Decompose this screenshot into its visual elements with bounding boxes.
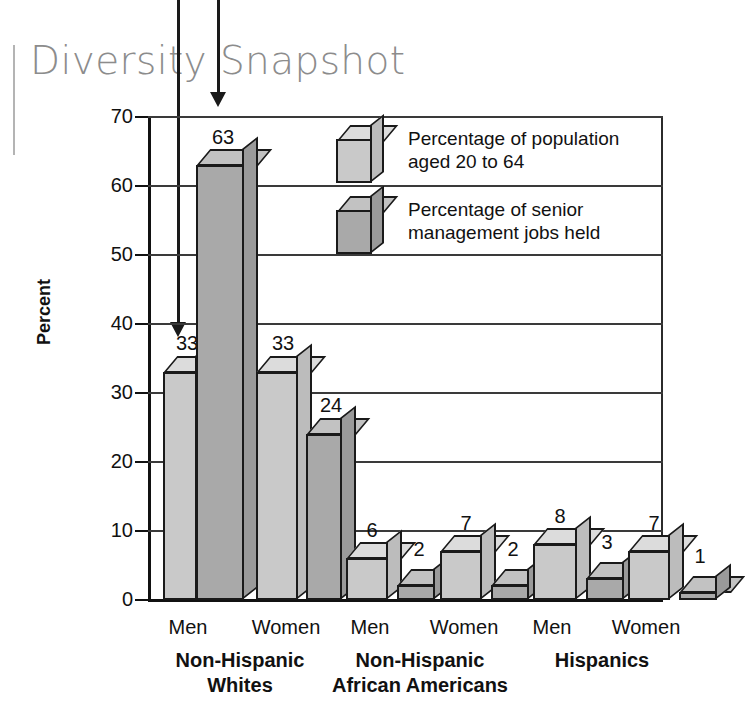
bar-top <box>306 418 370 435</box>
bar-top <box>196 149 272 166</box>
cat-label-nhwhite-women: Women <box>236 616 336 639</box>
title-rule <box>13 45 15 155</box>
cat-label-nhwhite-men: Men <box>148 616 228 639</box>
bar-face <box>440 551 482 600</box>
callout-arrow-63-line <box>217 0 220 95</box>
bar-face <box>196 165 244 600</box>
legend-cube-management-side <box>370 185 384 254</box>
bar-face <box>628 551 670 600</box>
bar-value-nhwhite-women-population: 33 <box>258 332 308 355</box>
bar-hispanic-women-management[interactable] <box>679 576 731 600</box>
y-tick-30: 30 <box>111 381 133 404</box>
cat-group-nhwhite: Non-Hispanic Whites <box>140 648 340 698</box>
bar-value-hispanic-men-management: 3 <box>582 531 632 554</box>
bar-side <box>715 563 731 600</box>
gridline-70 <box>148 116 663 118</box>
bar-value-nhwhite-women-management: 24 <box>306 394 356 417</box>
tick-10 <box>135 530 148 532</box>
bar-value-hispanic-men-population: 8 <box>535 505 585 528</box>
bar-value-nhwhite-men-management: 63 <box>198 126 248 149</box>
bar-face <box>586 578 624 600</box>
tick-50 <box>135 254 148 256</box>
y-tick-10: 10 <box>111 519 133 542</box>
cat-label-hispanic-women: Women <box>596 616 696 639</box>
bar-face <box>679 592 717 600</box>
y-tick-40: 40 <box>111 312 133 335</box>
legend-cube-population-face <box>336 139 372 183</box>
y-axis-title: Percent <box>34 279 55 345</box>
bar-value-hispanic-women-population: 7 <box>629 512 679 535</box>
bar-value-nhafam-men-population: 6 <box>347 519 397 542</box>
y-tick-20: 20 <box>111 450 133 473</box>
bar-top <box>256 356 326 373</box>
bar-face <box>397 585 435 600</box>
bar-face <box>533 544 577 600</box>
bar-value-nhafam-women-population: 7 <box>441 512 491 535</box>
bar-nhwhite-men-management[interactable] <box>196 149 258 600</box>
legend-cube-population <box>336 125 384 183</box>
callout-arrow-63-head <box>210 92 226 107</box>
tick-30 <box>135 392 148 394</box>
legend-entry-population[interactable]: Percentage of population aged 20 to 64 <box>336 125 636 187</box>
y-tick-70: 70 <box>111 105 133 128</box>
bar-value-hispanic-women-management: 1 <box>675 545 725 568</box>
bar-value-nhafam-women-management: 2 <box>488 538 538 561</box>
cat-group-nhafam: Non-Hispanic African Americans <box>320 648 520 698</box>
cat-label-nhafam-men: Men <box>330 616 410 639</box>
bar-face <box>256 372 298 600</box>
legend-cube-population-side <box>370 114 384 183</box>
cat-label-nhafam-women: Women <box>414 616 514 639</box>
tick-20 <box>135 461 148 463</box>
legend-label-management: Percentage of senior management jobs hel… <box>408 198 600 244</box>
cat-label-hispanic-men: Men <box>512 616 592 639</box>
y-tick-60: 60 <box>111 174 133 197</box>
bar-value-nhafam-men-management: 2 <box>394 538 444 561</box>
bar-face <box>306 434 342 600</box>
tick-60 <box>135 185 148 187</box>
bar-face <box>491 585 529 600</box>
legend-label-population: Percentage of population aged 20 to 64 <box>408 127 619 173</box>
legend-cube-management-face <box>336 210 372 254</box>
plot-area: Percentage of population aged 20 to 64 P… <box>148 116 663 600</box>
tick-40 <box>135 323 148 325</box>
y-tick-50: 50 <box>111 243 133 266</box>
bar-top <box>679 576 745 593</box>
cat-group-hispanic: Hispanics <box>512 648 692 673</box>
bar-face <box>346 558 388 600</box>
bar-nhwhite-women-population[interactable] <box>256 356 312 600</box>
tick-0 <box>135 599 148 601</box>
legend-entry-management[interactable]: Percentage of senior management jobs hel… <box>336 196 636 258</box>
y-axis-labels: 70 60 50 40 30 20 10 0 <box>88 116 133 600</box>
legend-cube-management <box>336 196 384 254</box>
tick-70 <box>135 116 148 118</box>
bar-face <box>163 372 197 600</box>
y-tick-0: 0 <box>122 588 133 611</box>
